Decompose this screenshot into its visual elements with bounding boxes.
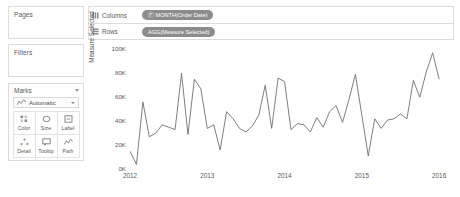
x-axis-tick: 2013 <box>200 172 214 179</box>
path-icon <box>64 138 73 147</box>
mark-type-label: Automatic <box>29 100 71 106</box>
marks-button-detail[interactable]: Detail <box>13 134 36 158</box>
y-axis-tick: 20K <box>115 141 126 148</box>
marks-button-path-label: Path <box>63 148 74 154</box>
series-measure-selected <box>130 48 452 170</box>
marks-card: Marks Automatic <box>8 83 84 161</box>
filters-label: Filters <box>9 45 83 59</box>
shelf-container: Columns Ⓕ MONTH(Order Date) Rows AGG(Mea… <box>88 6 454 40</box>
label-icon <box>64 115 73 124</box>
pages-card[interactable]: Pages <box>8 6 84 39</box>
x-axis-tick: 2014 <box>277 172 291 179</box>
marks-header: Marks <box>9 84 83 96</box>
pill-month-order-date[interactable]: Ⓕ MONTH(Order Date) <box>142 10 213 20</box>
columns-shelf[interactable]: Columns Ⓕ MONTH(Order Date) <box>88 6 454 23</box>
left-sidebar: Pages Filters Marks Automatic <box>8 6 84 191</box>
chart-area: Measure Selected 0K20K40K60K80K100K 2012… <box>88 48 454 194</box>
mark-type-dropdown[interactable]: Automatic <box>13 97 79 108</box>
marks-button-color-label: Color <box>18 125 31 131</box>
marks-button-path[interactable]: Path <box>57 134 80 158</box>
marks-button-label-label: Label <box>62 125 75 131</box>
marks-label: Marks <box>14 87 32 94</box>
x-axis-ticks: 20122013201420152016 <box>130 170 452 184</box>
marks-button-tooltip-label: Tooltip <box>38 148 53 154</box>
x-axis-tick: 2015 <box>355 172 369 179</box>
chevron-down-icon[interactable] <box>75 89 79 92</box>
rows-label: Rows <box>102 28 136 35</box>
y-axis-tick: 0K <box>118 165 126 172</box>
line-chart-plot[interactable] <box>130 48 452 168</box>
line-chart-icon <box>17 99 26 106</box>
rows-shelf[interactable]: Rows AGG(Measure Selected) <box>88 23 454 40</box>
marks-button-label[interactable]: Label <box>57 111 80 135</box>
tableau-worksheet: Pages Filters Marks Automatic <box>0 0 460 197</box>
color-icon <box>20 115 29 124</box>
x-axis-tick: 2016 <box>432 172 446 179</box>
marks-button-size[interactable]: Size <box>35 111 58 135</box>
chevron-down-icon[interactable] <box>71 102 75 104</box>
y-axis-tick: 60K <box>115 93 126 100</box>
marks-button-tooltip[interactable]: Tooltip <box>35 134 58 158</box>
size-icon <box>42 115 51 124</box>
y-axis-tick: 40K <box>115 117 126 124</box>
pill-agg-measure-selected[interactable]: AGG(Measure Selected) <box>142 27 215 37</box>
y-axis-tick: 100K <box>112 45 126 52</box>
y-axis-title: Measure Selected <box>88 0 95 82</box>
marks-button-size-label: Size <box>41 125 51 131</box>
x-axis-tick: 2012 <box>123 172 137 179</box>
filters-card[interactable]: Filters <box>8 44 84 77</box>
detail-icon <box>20 138 29 147</box>
y-axis-tick: 80K <box>115 69 126 76</box>
marks-button-detail-label: Detail <box>17 148 31 154</box>
tooltip-icon <box>42 138 51 147</box>
marks-button-grid: Color Size <box>13 111 79 157</box>
marks-button-color[interactable]: Color <box>13 111 36 135</box>
pages-label: Pages <box>9 7 83 21</box>
columns-label: Columns <box>102 12 136 19</box>
y-axis-ticks: 0K20K40K60K80K100K <box>96 48 126 168</box>
